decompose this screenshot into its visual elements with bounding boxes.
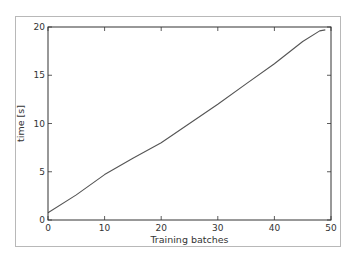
x-tick-label: 50 [325,223,337,233]
plot-area: 0102030405005101520 [34,22,337,233]
y-tick-label: 5 [39,167,45,177]
line-chart: 0102030405005101520 Training batches tim… [0,0,353,264]
x-tick-label: 40 [269,223,281,233]
y-tick-label: 20 [34,22,46,32]
x-tick-label: 0 [45,223,51,233]
y-tick-label: 15 [34,70,45,80]
x-tick-label: 10 [99,223,111,233]
x-tick-label: 30 [212,223,224,233]
x-axis-label: Training batches [149,234,228,245]
y-axis-label: time [s] [15,105,26,142]
y-tick-label: 10 [34,119,46,129]
data-line-0 [48,30,325,213]
x-tick-label: 20 [155,223,167,233]
y-tick-label: 0 [39,215,45,225]
